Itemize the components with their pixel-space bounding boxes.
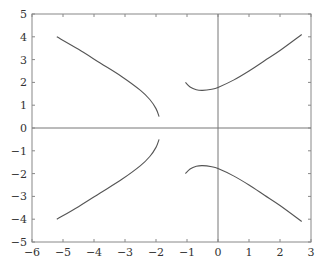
x-tick-label: −2 bbox=[148, 246, 164, 259]
x-tick-label: 3 bbox=[308, 246, 315, 259]
y-tick-label: −2 bbox=[11, 168, 27, 181]
x-tick-label: 0 bbox=[215, 246, 222, 259]
curve-right-upper-branch bbox=[185, 35, 301, 91]
y-tick-label: 4 bbox=[20, 31, 27, 44]
x-tick-label: −5 bbox=[55, 246, 71, 259]
x-axis-ticks: −6−5−4−3−2−10123 bbox=[24, 14, 315, 259]
x-tick-label: 1 bbox=[246, 246, 253, 259]
x-tick-label: −4 bbox=[86, 246, 102, 259]
y-tick-label: 5 bbox=[20, 8, 27, 21]
y-tick-label: 3 bbox=[20, 54, 27, 67]
x-tick-label: 2 bbox=[277, 246, 284, 259]
y-tick-label: 0 bbox=[20, 122, 27, 135]
y-tick-label: 2 bbox=[20, 76, 27, 89]
curve-left-lower-branch bbox=[57, 139, 159, 219]
y-tick-label: −3 bbox=[11, 190, 27, 203]
y-tick-label: 1 bbox=[20, 99, 27, 112]
y-tick-label: −1 bbox=[11, 145, 27, 158]
chart: −6−5−4−3−2−10123 −5−4−3−2−1012345 bbox=[0, 0, 330, 265]
curve-right-lower-branch bbox=[185, 166, 301, 222]
x-tick-label: −1 bbox=[179, 246, 195, 259]
y-tick-label: −4 bbox=[11, 213, 27, 226]
x-tick-label: −3 bbox=[117, 246, 133, 259]
y-tick-label: −5 bbox=[11, 236, 27, 249]
curve-left-upper-branch bbox=[57, 37, 159, 117]
reference-lines bbox=[32, 14, 311, 242]
